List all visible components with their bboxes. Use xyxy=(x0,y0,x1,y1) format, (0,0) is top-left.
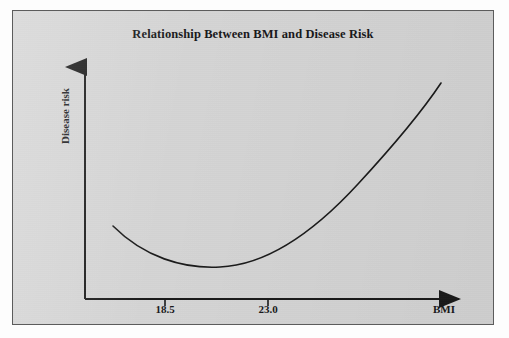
figure-frame: Relationship Between BMI and Disease Ris… xyxy=(12,10,494,325)
figure-page: Relationship Between BMI and Disease Ris… xyxy=(0,0,509,338)
disease-risk-curve xyxy=(113,83,441,267)
plot-area xyxy=(13,11,494,325)
